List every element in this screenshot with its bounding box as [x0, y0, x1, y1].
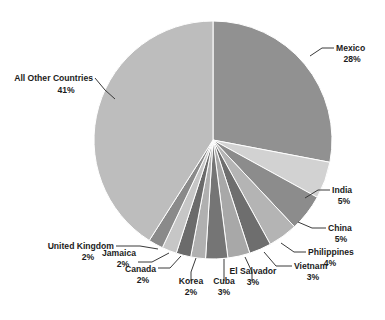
- label-india-name: India: [332, 185, 352, 195]
- label-vietnam-pct: 3%: [307, 272, 320, 282]
- label-korea-pct: 2%: [185, 287, 198, 297]
- label-mexico-pct: 28%: [343, 54, 361, 64]
- label-canada-pct: 2%: [137, 275, 150, 285]
- label-cuba-pct: 3%: [218, 287, 231, 297]
- label-canada-name: Canada: [125, 264, 156, 274]
- label-allother-pct: 41%: [57, 85, 75, 95]
- label-vietnam-name: Vietnam: [294, 261, 328, 271]
- label-cuba-name: Cuba: [213, 276, 235, 286]
- label-allother-name: All Other Countries: [14, 73, 93, 83]
- label-elsalvador-pct: 3%: [247, 277, 260, 287]
- label-china-name: China: [328, 223, 352, 233]
- label-jamaica-pct: 2%: [117, 259, 130, 269]
- label-china-pct: 5%: [335, 234, 348, 244]
- pie-chart-canvas: Mexico 28% India 5% China 5% Philippines…: [0, 0, 385, 320]
- label-india-pct: 5%: [338, 196, 351, 206]
- label-unitedkingdom-name: United Kingdom: [48, 241, 115, 251]
- label-philippines-name: Philippines: [308, 247, 354, 257]
- label-elsalvador-name: El Salvador: [230, 266, 277, 276]
- pie-slices-group: [94, 21, 332, 259]
- pie-chart: Mexico 28% India 5% China 5% Philippines…: [0, 0, 385, 320]
- label-korea-name: Korea: [179, 276, 204, 286]
- label-mexico-name: Mexico: [336, 43, 365, 53]
- label-unitedkingdom-pct: 2%: [82, 252, 95, 262]
